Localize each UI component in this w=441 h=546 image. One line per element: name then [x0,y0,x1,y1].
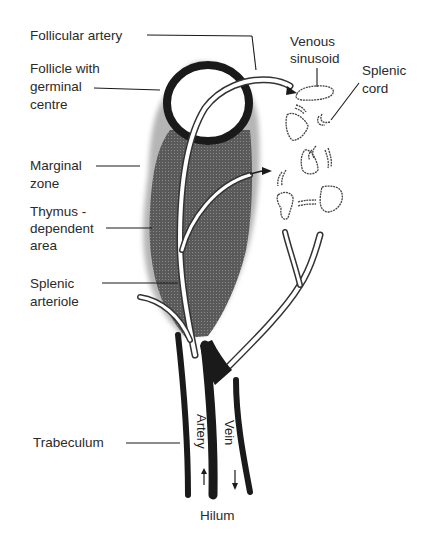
label-thymus-line1: Thymus - [30,203,86,220]
label-hilum: Hilum [200,507,235,524]
label-thymus-line3: area [30,237,57,254]
label-follicle-line1: Follicle with [30,60,100,77]
label-arteriole-line2: arteriole [30,293,79,310]
label-venous-line2: sinusoid [290,50,340,67]
label-cord-line1: Splenic [362,62,406,79]
trabeculum-right-wall [236,380,250,492]
label-marginal-line2: zone [30,175,59,192]
label-arteriole-line1: Splenic [30,275,74,292]
label-thymus-line2: dependent [30,220,94,237]
venous-sinusoid [296,86,333,100]
label-trabeculum: Trabeculum [33,434,104,451]
label-venous-line1: Venous [290,33,335,50]
label-marginal-line1: Marginal [30,157,82,174]
label-cord-line2: cord [362,80,388,97]
label-follicle-line3: centre [30,96,68,113]
artery-label: Artery [194,414,209,449]
label-follicular-artery: Follicular artery [30,27,122,44]
vein-label: Vein [222,420,237,445]
label-follicle-line2: germinal [30,78,82,95]
trabeculum-left-wall [178,335,188,495]
